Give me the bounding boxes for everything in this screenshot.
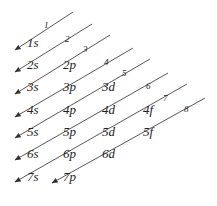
diagonal-arrow-7: [15, 84, 187, 182]
orbital-label: 6s: [27, 146, 39, 161]
diagonal-number: 1: [44, 20, 49, 30]
orbital-label: 3d: [101, 79, 116, 94]
orbital-label: 5p: [63, 124, 77, 139]
orbital-label: 5d: [102, 124, 116, 139]
orbital-label: 3s: [26, 79, 39, 94]
orbital-label: 7p: [63, 169, 77, 184]
diagonal-number: 4: [104, 57, 109, 67]
diagonal-number: 7: [163, 93, 168, 103]
orbital-label: 4p: [63, 102, 77, 117]
diagonal-number: 3: [82, 44, 88, 54]
orbital-label: 7s: [27, 169, 39, 184]
diagonal-arrow-1: [15, 12, 73, 50]
orbital-label: 4f: [143, 102, 156, 117]
orbital-label: 4d: [102, 102, 116, 117]
orbital-label: 6d: [102, 146, 116, 161]
orbital-label: 2p: [63, 57, 77, 72]
orbital-label: 1s: [27, 35, 39, 50]
diagonal-number: 5: [122, 68, 127, 78]
orbital-label: 3p: [62, 79, 77, 94]
diagram-canvas: 12345678 1s2s2p3s3p3d4s4p4d4f5s5p5d5f6s6…: [0, 0, 217, 206]
diagonal-number: 6: [146, 81, 151, 91]
aufbau-diagram: 12345678 1s2s2p3s3p3d4s4p4d4f5s5p5d5f6s6…: [0, 0, 217, 206]
orbital-label: 4s: [27, 102, 39, 117]
orbital-label: 5s: [27, 124, 39, 139]
orbital-label: 2s: [27, 57, 39, 72]
diagonal-number: 8: [184, 104, 189, 114]
orbital-label: 6p: [63, 146, 77, 161]
diagonal-number: 2: [65, 34, 70, 44]
